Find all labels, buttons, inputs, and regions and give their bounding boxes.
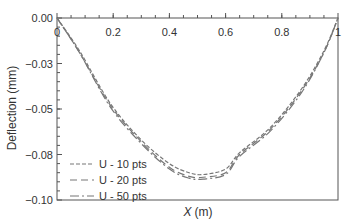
series-line-1 — [57, 18, 338, 175]
x-tick-label: 0.2 — [106, 26, 121, 38]
x-axis-label-unit: (m) — [195, 205, 213, 219]
x-axis-ticks: 00.20.40.60.81 — [54, 13, 341, 38]
x-axis-label: X(m) — [182, 205, 212, 219]
plot-border — [57, 18, 338, 200]
x-tick-label: 0.8 — [274, 26, 289, 38]
legend-label: U - 10 pts — [99, 158, 147, 170]
x-tick-label: 0.6 — [218, 26, 233, 38]
series-line-2 — [57, 18, 338, 178]
x-tick-label: 0.4 — [162, 26, 177, 38]
y-tick-label: 0.00 — [32, 12, 53, 24]
legend-label: U - 50 pts — [99, 190, 147, 202]
y-tick-label: −0.03 — [25, 58, 53, 70]
x-axis-label-var: X — [182, 205, 192, 219]
legend-label: U - 20 pts — [99, 174, 147, 186]
y-tick-label: −0.08 — [25, 149, 53, 161]
x-tick-label: 1 — [335, 26, 341, 38]
deflection-chart: 00.20.40.60.81 0.00−0.03−0.05−0.08−0.10 … — [0, 0, 348, 224]
series-line-3 — [57, 18, 338, 179]
series-layer — [57, 18, 338, 179]
plot-frame — [57, 18, 338, 200]
y-tick-label: −0.05 — [25, 103, 53, 115]
legend: U - 10 ptsU - 20 ptsU - 50 pts — [70, 158, 147, 202]
y-axis-ticks: 0.00−0.03−0.05−0.08−0.10 — [25, 12, 62, 206]
y-tick-label: −0.10 — [25, 194, 53, 206]
y-axis-label: Deflection (mm) — [5, 66, 19, 151]
